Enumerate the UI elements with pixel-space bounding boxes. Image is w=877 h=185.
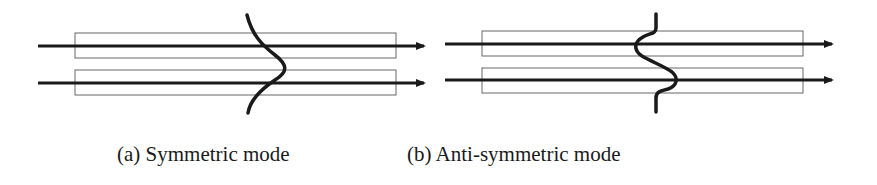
caption-symmetric-mode: (a) Symmetric mode <box>117 142 290 167</box>
panel-a-symmetric <box>38 15 424 113</box>
mode-profile-curve <box>636 14 676 112</box>
mode-profile-curve <box>247 15 285 113</box>
caption-antisymmetric-mode: (b) Anti-symmetric mode <box>407 142 620 167</box>
panel-b-antisymmetric <box>445 14 832 112</box>
